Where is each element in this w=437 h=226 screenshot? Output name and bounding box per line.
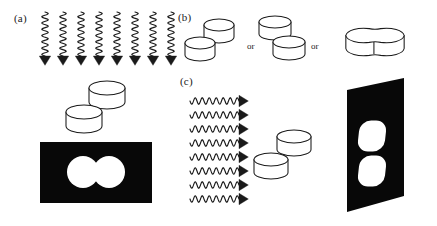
wave-line-1 — [60, 12, 66, 56]
panel-label-b: (b) — [178, 11, 191, 23]
wave-line-5 — [132, 12, 138, 56]
wave-arrowhead-1 — [57, 56, 68, 65]
wave-arrowhead-7 — [239, 193, 248, 204]
wave-line-5 — [190, 168, 239, 174]
wave-arrowhead-0 — [39, 56, 50, 65]
figure-canvas: (a) (b) (c) or or — [0, 0, 437, 226]
panel-b-disc-group — [185, 16, 404, 61]
wave-arrowhead-2 — [239, 123, 248, 134]
wave-arrowhead-0 — [239, 95, 248, 106]
panel-label-c: (c) — [180, 75, 193, 87]
panel-a-shadow-blob-1 — [93, 156, 125, 188]
panel-c-disc-top-1 — [254, 153, 288, 166]
panel-a-disc-top-0 — [89, 81, 125, 95]
wave-arrowhead-5 — [239, 165, 248, 176]
wave-line-7 — [168, 12, 174, 56]
panel-c-disc-top-0 — [277, 130, 311, 143]
wave-arrowhead-3 — [93, 56, 104, 65]
panel-c-wave-group — [190, 95, 248, 204]
panel-b-disc-top-0-0 — [204, 19, 234, 31]
wave-line-4 — [190, 154, 239, 160]
wave-arrowhead-3 — [239, 137, 248, 148]
wave-line-3 — [96, 12, 102, 56]
panel-label-a: (a) — [14, 12, 27, 24]
or-label-first: or — [247, 41, 255, 51]
panel-b-disc-top-0-1 — [185, 37, 215, 49]
wave-line-0 — [190, 98, 239, 104]
wave-arrowhead-6 — [147, 56, 158, 65]
wave-line-1 — [190, 112, 239, 118]
panel-c-screen-group — [347, 78, 404, 212]
panel-a-wave-group — [39, 12, 176, 65]
wave-line-6 — [150, 12, 156, 56]
diagram-artwork — [0, 0, 437, 226]
wave-arrowhead-6 — [239, 179, 248, 190]
wave-line-4 — [114, 12, 120, 56]
wave-arrowhead-1 — [239, 109, 248, 120]
wave-arrowhead-4 — [111, 56, 122, 65]
wave-line-0 — [42, 12, 48, 56]
fused-disc-top — [346, 28, 404, 43]
wave-arrowhead-7 — [165, 56, 176, 65]
panel-a-disc-group — [66, 81, 125, 133]
panel-b-disc-top-1-0 — [259, 16, 291, 28]
or-label-second: or — [311, 41, 319, 51]
panel-b-disc-top-1-1 — [273, 36, 305, 48]
wave-arrowhead-4 — [239, 151, 248, 162]
wave-arrowhead-5 — [129, 56, 140, 65]
panel-a-disc-top-1 — [66, 105, 102, 119]
wave-line-6 — [190, 182, 239, 188]
wave-line-2 — [190, 126, 239, 132]
wave-line-7 — [190, 196, 239, 202]
wave-line-2 — [78, 12, 84, 56]
wave-arrowhead-2 — [75, 56, 86, 65]
wave-line-3 — [190, 140, 239, 146]
panel-a-screen-group — [40, 142, 152, 203]
panel-c-disc-group — [254, 130, 311, 179]
